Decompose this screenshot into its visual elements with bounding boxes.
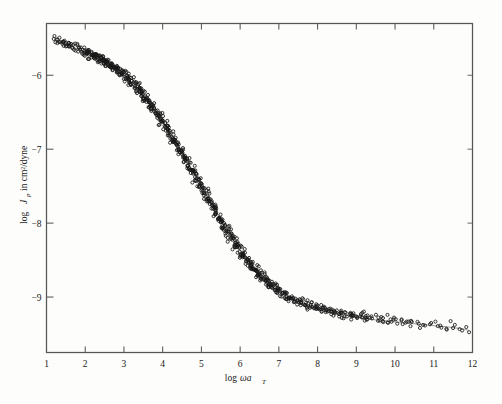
y-axis-title-symbol: J	[19, 199, 29, 204]
data-point	[226, 240, 229, 243]
x-tick-label: 4	[160, 359, 165, 369]
x-axis-title-subscript: T	[262, 378, 267, 385]
data-point	[243, 247, 246, 250]
data-point	[58, 36, 61, 39]
data-point	[208, 192, 211, 195]
data-points	[52, 35, 470, 334]
data-curve	[58, 41, 469, 330]
data-point	[374, 313, 377, 316]
data-point	[350, 318, 353, 321]
y-axis-title-suffix: in cm²/dyne	[19, 146, 29, 191]
data-point	[458, 328, 461, 331]
x-axis-title-prefix: log	[225, 373, 237, 383]
x-tick-label: 12	[468, 359, 478, 369]
y-axis-ticks	[47, 75, 473, 297]
y-axis-title-subscript: p	[24, 193, 31, 198]
data-point	[235, 237, 238, 240]
data-point	[161, 115, 164, 118]
y-tick-label: −8	[31, 219, 41, 229]
data-point	[191, 181, 194, 184]
data-point	[296, 303, 299, 306]
data-point	[193, 164, 196, 167]
data-point	[172, 130, 175, 133]
x-tick-label: 8	[315, 359, 320, 369]
data-point	[465, 325, 468, 328]
x-axis-ticks	[47, 24, 473, 353]
y-tick-label: −7	[31, 145, 41, 155]
x-tick-label: 7	[276, 359, 281, 369]
data-point	[396, 322, 399, 325]
y-tick-label: −9	[31, 293, 41, 303]
x-tick-label: 5	[199, 359, 204, 369]
data-point	[83, 46, 86, 49]
x-tick-label: 2	[83, 359, 88, 369]
y-axis-title-prefix: log	[19, 212, 29, 224]
x-tick-label: 1	[44, 359, 49, 369]
x-tick-label: 11	[429, 359, 438, 369]
data-point	[453, 323, 456, 326]
data-point	[409, 325, 412, 328]
x-tick-label: 10	[390, 359, 400, 369]
x-tick-label: 9	[354, 359, 359, 369]
plot-frame	[47, 24, 473, 353]
y-axis-tick-labels: −6−7−8−9	[31, 71, 41, 303]
data-point	[434, 320, 437, 323]
data-point	[449, 320, 452, 323]
y-tick-label: −6	[31, 71, 41, 81]
x-axis-title-omega: ωa	[240, 373, 252, 383]
x-tick-label: 3	[122, 359, 127, 369]
x-tick-label: 6	[238, 359, 243, 369]
x-axis-title: log ωa T	[225, 373, 267, 385]
data-point	[386, 313, 389, 316]
x-axis-tick-labels: 123456789101112	[44, 359, 477, 369]
data-point	[219, 213, 222, 216]
data-point	[468, 331, 471, 334]
creep-compliance-plot: 123456789101112 −6−7−8−9 log ωa T log J …	[0, 0, 502, 404]
y-axis-title: log J p in cm²/dyne	[19, 146, 31, 224]
data-point	[418, 326, 421, 329]
figure-panel: 123456789101112 −6−7−8−9 log ωa T log J …	[0, 0, 502, 404]
